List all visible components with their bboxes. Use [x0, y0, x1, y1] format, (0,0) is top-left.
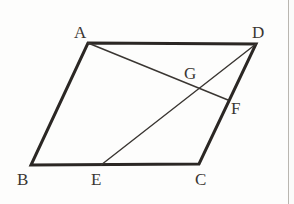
- vertex-label-e: E: [91, 171, 101, 188]
- figure-page: ADBCEFG: [0, 0, 294, 204]
- vertex-label-b: B: [17, 171, 28, 188]
- vertex-label-g: G: [184, 65, 196, 82]
- parallelogram-outline: [31, 43, 256, 165]
- segment-a-f: [88, 43, 228, 100]
- vertex-label-a: A: [74, 24, 86, 41]
- geometry-figure: [0, 0, 294, 204]
- parallelogram-path: [31, 43, 256, 165]
- vertex-label-c: C: [195, 171, 206, 188]
- vertex-label-d: D: [252, 24, 264, 41]
- vertex-label-f: F: [231, 100, 240, 117]
- page-edge-shade: [289, 0, 294, 204]
